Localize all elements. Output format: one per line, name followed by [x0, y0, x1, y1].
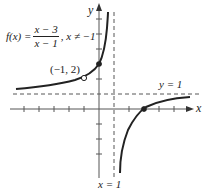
- x-axis-arrow-icon: [186, 106, 194, 112]
- y-axis: [96, 3, 102, 178]
- function-formula: f(x) = x − 3 x − 1 , x ≠ −1: [6, 24, 96, 49]
- fraction: x − 3 x − 1: [33, 24, 58, 49]
- point-label: (−1, 2): [50, 64, 80, 75]
- y-axis-arrow-icon: [96, 3, 102, 11]
- filled-point-3-0: [141, 106, 147, 112]
- open-point-minus1-2: [81, 75, 86, 80]
- y-axis-label: y: [88, 4, 93, 16]
- x-axis-label: x: [196, 102, 201, 114]
- filled-point-0-3: [96, 61, 102, 67]
- x-axis: [10, 106, 194, 112]
- horizontal-asymptote-label: y = 1: [159, 79, 182, 90]
- denominator: x − 1: [34, 37, 57, 49]
- domain-condition: , x ≠ −1: [61, 31, 96, 42]
- numerator: x − 3: [33, 24, 58, 37]
- vertical-asymptote-label: x = 1: [98, 179, 121, 190]
- curve-right-branch: [120, 97, 190, 173]
- function-lhs: f(x) =: [6, 31, 31, 42]
